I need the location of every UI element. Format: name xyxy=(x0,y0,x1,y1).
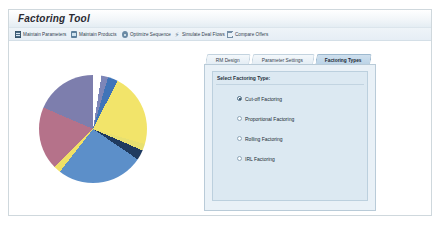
radio-label: Rolling Factoring xyxy=(245,136,283,142)
document-icon xyxy=(15,31,21,38)
tab-label: Parameter Settings xyxy=(259,58,306,63)
toolbar-button-label: Simulate Deal Flows xyxy=(182,32,225,38)
application-window: Factoring Tool Maintain ParametersMainta… xyxy=(8,9,432,216)
factoring-type-radio-group: Cut-off FactoringProportional FactoringR… xyxy=(237,94,361,174)
factoring-types-panel: Select Factoring Type: Cut-off Factoring… xyxy=(204,64,376,211)
radio-button-icon[interactable] xyxy=(237,96,242,101)
page-title: Factoring Tool xyxy=(18,13,90,24)
radio-button-icon[interactable] xyxy=(237,116,242,121)
package-icon xyxy=(71,31,77,38)
radio-label: IRL Factoring xyxy=(245,156,275,162)
radio-label: Proportional Factoring xyxy=(245,116,294,122)
group-divider xyxy=(216,84,364,85)
toolbar-button-bolt[interactable]: ⚡Simulate Deal Flows xyxy=(174,29,225,40)
bolt-icon: ⚡ xyxy=(174,31,180,38)
workspace: RM DesignParameter SettingsFactoring Typ… xyxy=(9,41,431,215)
title-bar: Factoring Tool xyxy=(9,10,431,28)
radio-button-icon[interactable] xyxy=(237,136,242,141)
pie-chart xyxy=(21,69,161,189)
radio-cut-off-factoring[interactable]: Cut-off Factoring xyxy=(237,94,361,103)
toolbar-button-label: Optimize Sequence xyxy=(130,32,171,38)
toolbar-button-label: Maintain Parameters xyxy=(23,32,66,38)
radio-rolling-factoring[interactable]: Rolling Factoring xyxy=(237,134,361,143)
toolbar-button-package[interactable]: Maintain Products xyxy=(71,29,117,40)
select-factoring-type-group: Select Factoring Type: Cut-off Factoring… xyxy=(212,71,368,201)
group-label: Select Factoring Type: xyxy=(217,75,270,81)
chart-icon xyxy=(227,31,233,38)
toolbar: Maintain ParametersMaintain ProductsOpti… xyxy=(9,28,431,41)
toolbar-button-gear[interactable]: Optimize Sequence xyxy=(122,29,171,40)
radio-proportional-factoring[interactable]: Proportional Factoring xyxy=(237,114,361,123)
toolbar-button-label: Maintain Products xyxy=(79,32,117,38)
tab-label: Factoring Types xyxy=(322,58,365,63)
pie-chart-graphic xyxy=(39,75,147,183)
radio-irl-factoring[interactable]: IRL Factoring xyxy=(237,154,361,163)
toolbar-button-document[interactable]: Maintain Parameters xyxy=(15,29,66,40)
toolbar-button-chart[interactable]: Compare Offers xyxy=(227,29,268,40)
toolbar-button-label: Compare Offers xyxy=(235,32,268,38)
radio-button-icon[interactable] xyxy=(237,156,242,161)
tab-label: RM Design xyxy=(213,58,243,63)
radio-label: Cut-off Factoring xyxy=(245,96,282,102)
gear-icon xyxy=(122,31,128,38)
